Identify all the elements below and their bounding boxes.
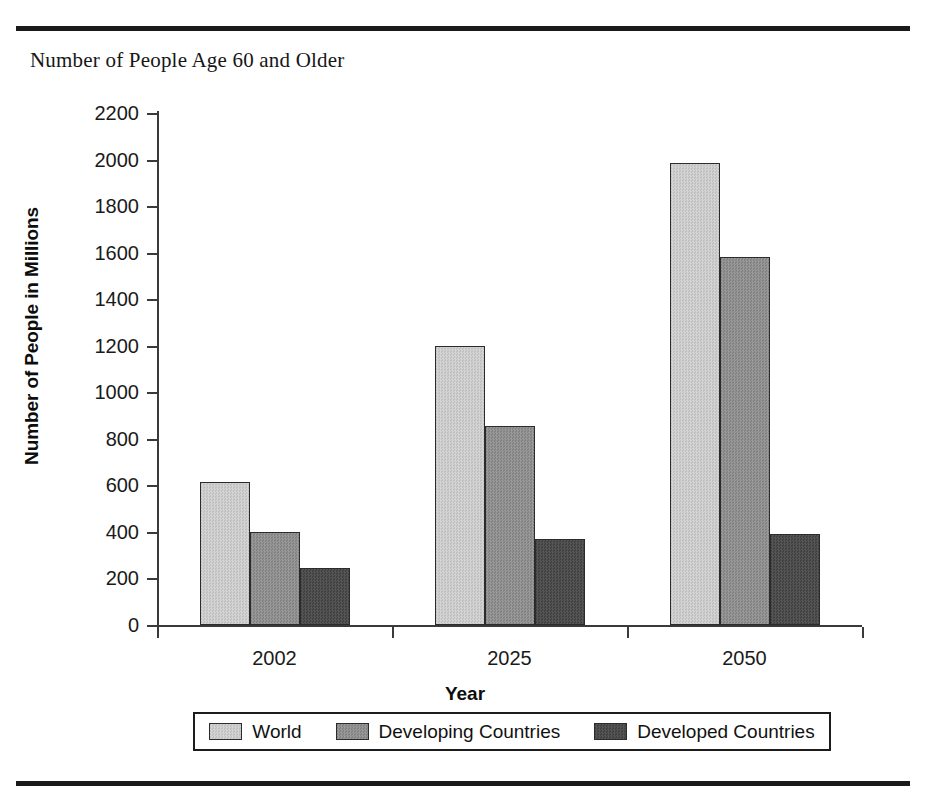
y-axis-tick (147, 113, 157, 115)
x-axis-group-separator (627, 627, 629, 638)
x-axis-tick-label: 2002 (252, 647, 297, 670)
bar (770, 534, 820, 625)
x-axis-group-separator (392, 627, 394, 638)
x-axis-tick-label: 2050 (722, 647, 767, 670)
legend-label: World (252, 721, 301, 743)
x-axis-title: Year (0, 683, 930, 705)
y-axis-tick-label: 1400 (83, 289, 139, 309)
figure-title: Number of People Age 60 and Older (30, 48, 345, 73)
y-axis-title: Number of People in Millions (21, 141, 43, 531)
y-axis-tick-label: 0 (83, 615, 139, 635)
y-axis-tick-label: 2000 (83, 150, 139, 170)
bars-layer (157, 113, 862, 625)
y-axis-tick-label: 1200 (83, 336, 139, 356)
legend-swatch (594, 723, 627, 740)
bar (535, 539, 585, 625)
y-axis-tick (147, 346, 157, 348)
x-axis-group-separator (157, 627, 159, 638)
y-axis-tick-label: 1600 (83, 243, 139, 263)
y-axis-tick-label: 200 (83, 568, 139, 588)
x-axis-group-separator (862, 627, 864, 638)
chart-legend: WorldDeveloping CountriesDeveloped Count… (193, 712, 831, 751)
bar (670, 163, 720, 625)
y-axis-tick (147, 485, 157, 487)
y-axis-tick (147, 625, 157, 627)
y-axis-tick (147, 160, 157, 162)
bar (720, 257, 770, 625)
legend-label: Developing Countries (379, 721, 561, 743)
y-axis-tick (147, 578, 157, 580)
y-axis-tick (147, 392, 157, 394)
y-axis-tick (147, 253, 157, 255)
y-axis-tick (147, 439, 157, 441)
bar (300, 568, 350, 625)
legend-label: Developed Countries (637, 721, 814, 743)
legend-item: World (209, 721, 301, 743)
y-axis-tick (147, 532, 157, 534)
y-axis-tick (147, 299, 157, 301)
bottom-divider-rule (16, 781, 910, 786)
y-axis-tick-label: 1800 (83, 196, 139, 216)
legend-item: Developing Countries (336, 721, 561, 743)
bar-chart: 0200400600800100012001400160018002000220… (0, 95, 930, 675)
top-divider-rule (16, 26, 910, 31)
legend-swatch (336, 723, 369, 740)
x-axis-tick-label: 2025 (487, 647, 532, 670)
bar (435, 346, 485, 625)
y-axis-tick (147, 206, 157, 208)
y-axis-tick-label: 1000 (83, 382, 139, 402)
y-axis-tick-label: 800 (83, 429, 139, 449)
legend-swatch (209, 723, 242, 740)
bar (200, 482, 250, 625)
bar (485, 426, 535, 625)
x-axis-line (157, 625, 862, 627)
legend-item: Developed Countries (594, 721, 814, 743)
bar (250, 532, 300, 625)
y-axis-tick-label: 400 (83, 522, 139, 542)
y-axis-tick-label: 600 (83, 475, 139, 495)
y-axis-tick-label: 2200 (83, 103, 139, 123)
